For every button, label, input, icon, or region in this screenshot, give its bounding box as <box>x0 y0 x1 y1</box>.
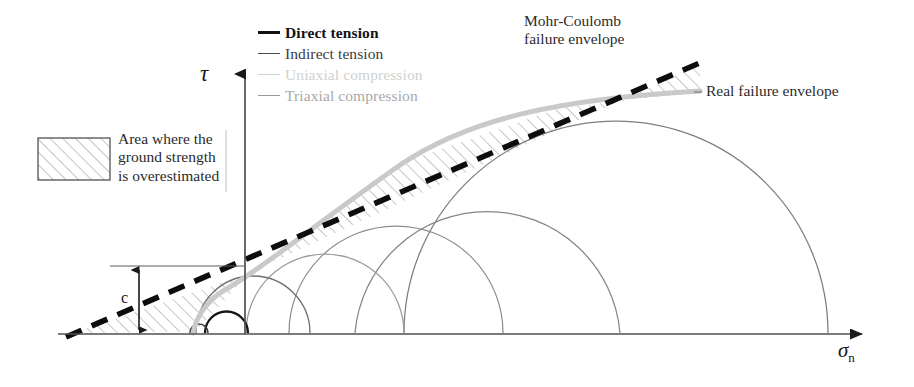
legend-label-indirect-tension: Indirect tension <box>285 45 383 63</box>
real-failure-envelope-curve <box>193 91 700 333</box>
hatch-key-box <box>38 138 110 180</box>
hatch-area-caption: Area where the ground strength is overes… <box>118 130 219 185</box>
sigma-glyph: σ <box>838 338 848 362</box>
legend-label-direct-tension: Direct tension <box>285 24 379 42</box>
x-axis-label-sigma-n: σn <box>838 338 855 366</box>
legend: Direct tension Indirect tension Uniaxial… <box>258 22 468 106</box>
mohr-coulomb-figure: Direct tension Indirect tension Uniaxial… <box>0 0 914 387</box>
legend-item-indirect-tension[interactable]: Indirect tension <box>258 43 468 64</box>
legend-item-triaxial-compression[interactable]: Triaxial compression <box>258 85 468 106</box>
legend-item-uniaxial-compression[interactable]: Uniaxial compression <box>258 64 468 85</box>
mohr-circles-group <box>190 121 828 333</box>
legend-swatch-indirect-tension-icon <box>258 53 280 55</box>
mohr-circle-triaxial-3 <box>355 212 620 333</box>
real-failure-envelope-label: Real failure envelope <box>706 82 839 100</box>
cohesion-label: c <box>121 289 128 308</box>
mohr-coulomb-envelope-label: Mohr-Coulomb failure envelope <box>524 12 624 49</box>
legend-swatch-direct-tension-icon <box>258 31 280 34</box>
y-axis-label-tau: τ <box>200 60 208 87</box>
legend-label-uniaxial-compression: Uniaxial compression <box>285 66 423 84</box>
legend-label-triaxial-compression: Triaxial compression <box>285 87 418 105</box>
mohr-circle-triaxial-2 <box>289 226 503 333</box>
sigma-subscript: n <box>848 350 855 365</box>
legend-swatch-uniaxial-compression-icon <box>258 74 280 76</box>
legend-item-direct-tension[interactable]: Direct tension <box>258 22 468 43</box>
legend-swatch-triaxial-compression-icon <box>258 95 280 97</box>
mohr-circle-direct-tension <box>205 312 248 334</box>
